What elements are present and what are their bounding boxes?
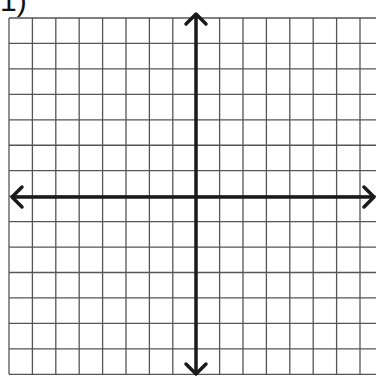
axes [12,14,374,374]
coordinate-plane [0,0,376,377]
